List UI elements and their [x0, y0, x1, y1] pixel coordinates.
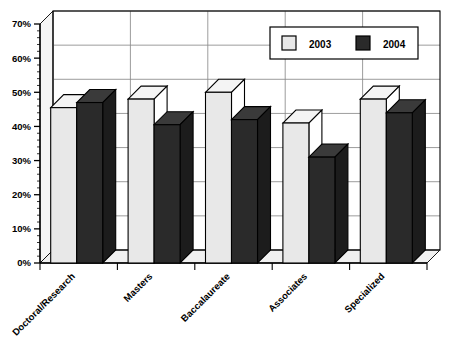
- category-label-masters: Masters: [121, 271, 154, 304]
- y-tick-label-0: 0%: [17, 257, 31, 268]
- bar-front-face: [386, 113, 412, 263]
- bar-side-face: [180, 112, 193, 263]
- bar-chart: 0%10%20%30%40%50%60%70% Doctoral/Researc…: [0, 0, 453, 353]
- bar-side-face: [335, 144, 348, 263]
- bar-2004-associates: [309, 144, 348, 263]
- bar-2004-baccalaureate: [232, 107, 271, 263]
- bar-2004-doctoral-research: [77, 90, 116, 263]
- legend-label-2003[interactable]: 2003: [309, 39, 332, 50]
- y-tick-label-60: 60%: [12, 53, 32, 64]
- y-tick-label-70: 70%: [12, 18, 32, 29]
- x-axis-category-labels: Doctoral/ResearchMastersBaccalaureateAss…: [10, 270, 387, 337]
- bar-front-face: [283, 123, 309, 263]
- category-label-associates: Associates: [266, 271, 309, 314]
- bar-front-face: [360, 99, 386, 263]
- bar-front-face: [77, 103, 103, 263]
- category-label-baccalaureate: Baccalaureate: [178, 271, 231, 324]
- chart-canvas: 0%10%20%30%40%50%60%70% Doctoral/Researc…: [0, 0, 453, 353]
- bar-2004-masters: [154, 112, 193, 263]
- y-tick-label-20: 20%: [12, 189, 32, 200]
- legend-label-2004[interactable]: 2004: [383, 39, 406, 50]
- bar-front-face: [154, 125, 180, 263]
- bar-side-face: [258, 107, 271, 263]
- bar-side-face: [412, 100, 425, 263]
- bar-series-group: [51, 79, 426, 263]
- category-label-specialized: Specialized: [342, 271, 387, 316]
- y-axis-ticks: [34, 24, 40, 263]
- bar-2004-specialized: [386, 100, 425, 263]
- bar-front-face: [232, 120, 258, 263]
- y-tick-label-30: 30%: [12, 155, 32, 166]
- bar-side-face: [103, 90, 116, 263]
- legend-swatch-2003[interactable]: [282, 36, 296, 50]
- y-tick-label-40: 40%: [12, 121, 32, 132]
- x-axis-ticks: [40, 263, 427, 270]
- bar-front-face: [51, 108, 77, 263]
- y-axis-tick-labels: 0%10%20%30%40%50%60%70%: [12, 18, 32, 268]
- y-tick-label-10: 10%: [12, 223, 32, 234]
- y-tick-label-50: 50%: [12, 87, 32, 98]
- category-label-doctoral-research: Doctoral/Research: [10, 270, 77, 337]
- chart-legend[interactable]: 20032004: [270, 27, 418, 59]
- bar-front-face: [128, 99, 154, 263]
- bar-front-face: [206, 92, 232, 263]
- legend-swatch-2004[interactable]: [356, 36, 370, 50]
- bar-front-face: [309, 157, 335, 263]
